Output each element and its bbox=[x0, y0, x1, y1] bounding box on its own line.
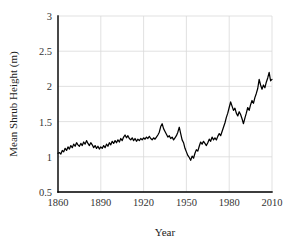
y-tick-label: 1 bbox=[47, 152, 52, 163]
shrub-height-line-chart: 0.511.522.53 186018901920195019802010 Ye… bbox=[0, 0, 286, 245]
x-tick-label: 1860 bbox=[48, 197, 69, 208]
x-tick-label: 1980 bbox=[219, 197, 240, 208]
chart-figure: 0.511.522.53 186018901920195019802010 Ye… bbox=[0, 0, 286, 245]
x-tick-label: 1890 bbox=[90, 197, 111, 208]
x-axis-title: Year bbox=[155, 226, 176, 238]
x-tick-label: 1950 bbox=[176, 197, 197, 208]
y-tick-label: 2 bbox=[47, 81, 52, 92]
y-tick-label: 2.5 bbox=[39, 46, 52, 57]
y-tick-label: 3 bbox=[47, 11, 52, 22]
x-tick-label: 1920 bbox=[133, 197, 154, 208]
y-axis-title: Mean Shrub Height (m) bbox=[7, 51, 20, 157]
x-tick-label: 2010 bbox=[262, 197, 283, 208]
y-tick-label: 1.5 bbox=[39, 117, 52, 128]
